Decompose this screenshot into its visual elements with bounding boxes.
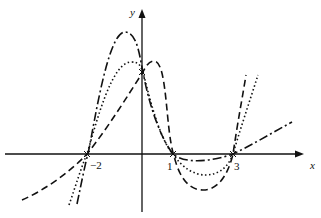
y-axis-label: y — [130, 7, 135, 18]
graph-canvas — [0, 0, 321, 218]
dash-dot-curve — [77, 32, 292, 204]
x-tick-label-neg2: −2 — [90, 160, 102, 171]
y-axis — [139, 9, 146, 212]
x-tick-label-1: 1 — [167, 161, 173, 172]
function-graph-figure: y x −2 1 3 — [0, 0, 321, 218]
dashed-curve — [22, 61, 246, 200]
x-tick-label-3: 3 — [234, 161, 240, 172]
x-axis-label: x — [310, 160, 315, 171]
x-axis — [5, 151, 304, 158]
